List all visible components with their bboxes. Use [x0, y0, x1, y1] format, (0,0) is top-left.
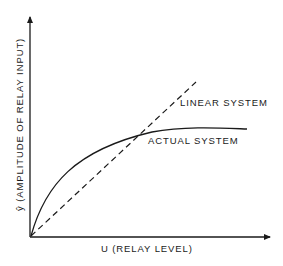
y-axis-label: ŷ (AMPLITUDE OF RELAY INPUT): [14, 38, 25, 211]
linear-system-label: LINEAR SYSTEM: [180, 97, 268, 108]
linear-system-line: [31, 82, 196, 236]
relay-amplitude-diagram: LINEAR SYSTEM ACTUAL SYSTEM U (RELAY LEV…: [0, 0, 283, 266]
actual-system-label: ACTUAL SYSTEM: [148, 135, 239, 146]
x-axis-label: U (RELAY LEVEL): [101, 243, 193, 254]
